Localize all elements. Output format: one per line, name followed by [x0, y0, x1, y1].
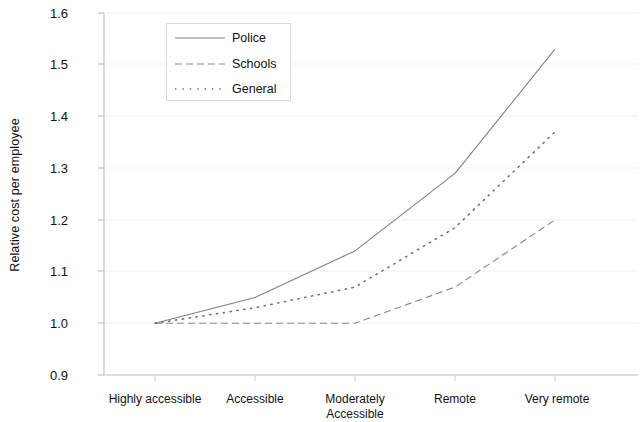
legend: Police Schools General	[166, 23, 291, 101]
legend-line-sample-general	[174, 83, 226, 95]
legend-item-general: General	[167, 76, 290, 102]
plot-area	[0, 0, 640, 422]
legend-line-sample-schools	[174, 58, 226, 70]
legend-label-general: General	[232, 82, 276, 96]
chart-figure: Relative cost per employee 1.6 1.5 1.4 1…	[0, 0, 640, 422]
legend-item-police: Police	[167, 25, 290, 51]
legend-item-schools: Schools	[167, 51, 290, 77]
legend-line-sample-police	[174, 32, 226, 44]
legend-label-police: Police	[232, 31, 266, 45]
series-line-general	[155, 132, 555, 323]
legend-label-schools: Schools	[232, 57, 276, 71]
